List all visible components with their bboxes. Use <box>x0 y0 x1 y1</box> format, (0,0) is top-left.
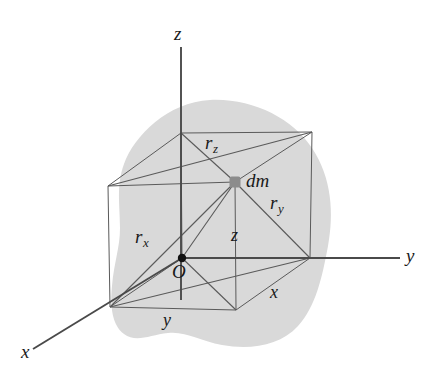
coordinate-label-x: x <box>270 283 278 301</box>
diagram-svg <box>0 0 441 387</box>
origin-label: O <box>172 262 186 281</box>
rx-label-sub: x <box>143 237 149 250</box>
coordinate-label-y: y <box>163 311 171 329</box>
dm-label: dm <box>246 171 269 190</box>
axis-label-y: y <box>406 246 414 265</box>
dm-dot <box>230 177 241 188</box>
ry-label-base: r <box>270 192 277 213</box>
rz-label-base: r <box>205 132 212 153</box>
rx-label-base: r <box>135 226 142 247</box>
ry-label-sub: y <box>278 203 284 216</box>
ry-label: ry <box>270 193 283 212</box>
rz-label-sub: z <box>213 143 218 156</box>
rx-label: rx <box>135 227 148 246</box>
figure-canvas: z y x O dm rz ry rx z x y <box>0 0 441 387</box>
axis-label-z: z <box>174 24 181 43</box>
coordinate-label-z: z <box>231 226 238 244</box>
rz-label: rz <box>205 133 217 152</box>
box-edge-front-left <box>108 186 110 307</box>
axis-label-x: x <box>21 342 29 361</box>
